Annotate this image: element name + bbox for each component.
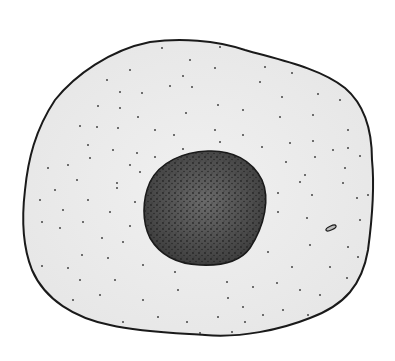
- cell-illustration: [0, 0, 395, 361]
- nucleus-chromatin: [144, 151, 266, 265]
- cell-diagram: [0, 0, 395, 361]
